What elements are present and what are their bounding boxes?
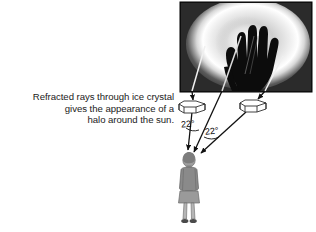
observer-skirt [179,191,200,203]
ice-crystal-left [179,101,205,113]
angle-label-22-right: 22° [205,125,220,136]
observer-shoe-left [181,219,188,223]
halo-photograph [180,0,312,92]
halo-diagram-figure: Refracted rays through ice crystal gives… [0,0,316,232]
caption-text: Refracted rays through ice crystal gives… [6,91,174,126]
observer-hair [183,152,195,163]
observer-leg-right [191,203,195,219]
ray-direct-sun-to-eye [194,91,222,152]
observer-figure [179,152,200,223]
angle-label-22-left: 22° [181,119,195,130]
observer-shoe-right [190,219,197,223]
ice-crystal-right [240,100,266,112]
observer-leg-left [183,203,187,219]
